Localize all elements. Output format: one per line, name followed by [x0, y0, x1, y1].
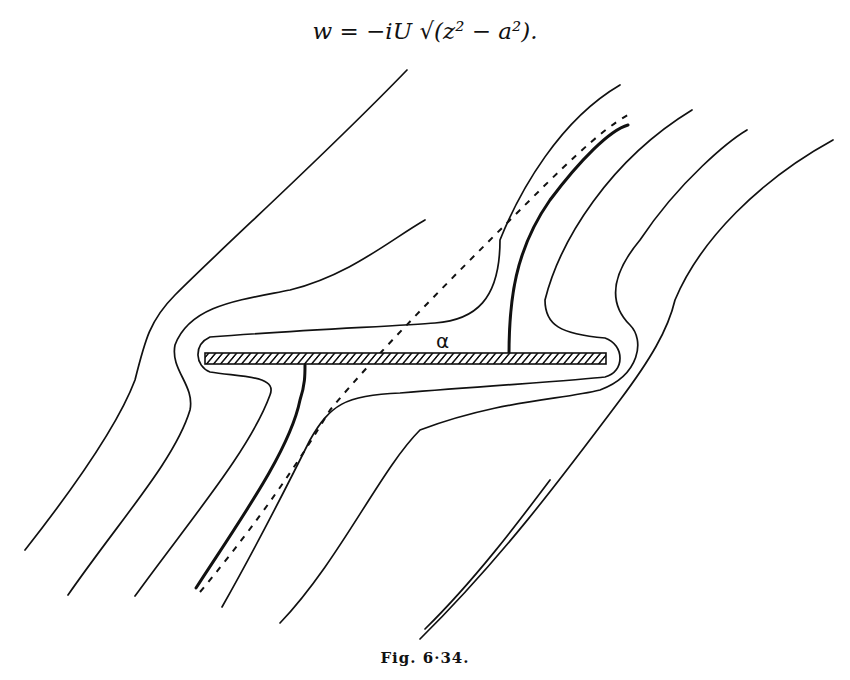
angle-alpha-label: α [436, 329, 449, 353]
streamline-figure: α [0, 0, 850, 680]
figure-caption: Fig. 6·34. [0, 649, 850, 667]
streamlines-right [222, 110, 833, 639]
flat-plate [205, 353, 606, 364]
